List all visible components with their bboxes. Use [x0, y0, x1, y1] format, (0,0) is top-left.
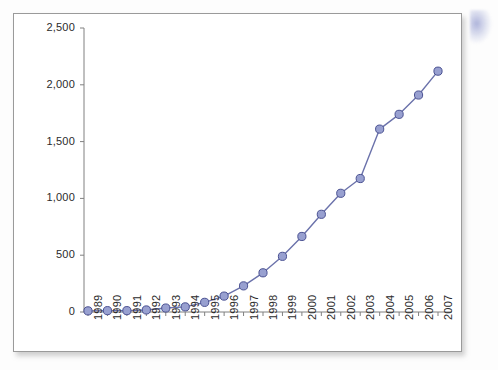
x-axis-tick-label: 1992 [150, 295, 162, 320]
x-axis-tick-label: 1989 [92, 295, 104, 320]
data-point-marker [317, 210, 325, 218]
data-point-marker [84, 307, 92, 315]
x-axis-tick-label: 2000 [306, 295, 318, 320]
data-point-marker [259, 269, 267, 277]
data-point-marker [220, 292, 228, 300]
x-axis-tick-label: 2004 [384, 295, 396, 320]
data-point-marker [376, 125, 384, 133]
x-axis-tick-label: 1990 [111, 295, 123, 320]
x-axis-tick-label: 2002 [345, 295, 357, 320]
data-point-marker [162, 304, 170, 312]
x-axis-tick-label: 2007 [442, 295, 454, 320]
x-axis-tick-label: 2005 [403, 295, 415, 320]
data-point-marker [278, 252, 286, 260]
x-axis-tick-label: 1993 [170, 295, 182, 320]
data-point-marker [239, 282, 247, 290]
x-axis-tick-label: 1996 [228, 295, 240, 320]
y-axis-tick-label: 2,000 [46, 78, 75, 90]
y-axis-tick-label: 0 [69, 305, 75, 317]
data-markers [84, 67, 442, 315]
x-axis-tick-label: 1995 [209, 295, 221, 320]
y-axis-tick-label: 1,500 [46, 135, 75, 147]
data-point-marker [395, 110, 403, 118]
y-axis-ticks [80, 28, 84, 312]
x-axis-tick-label: 1997 [248, 295, 260, 320]
data-point-marker [356, 174, 364, 182]
data-point-marker [414, 91, 422, 99]
x-axis-tick-label: 1994 [189, 295, 201, 320]
data-point-marker [298, 232, 306, 240]
x-axis-tick-label: 1998 [267, 295, 279, 320]
data-point-marker [434, 67, 442, 75]
x-axis-tick-label: 1999 [286, 295, 298, 320]
data-point-marker [123, 307, 131, 315]
y-axis-tick-label: 2,500 [46, 21, 75, 33]
data-point-marker [337, 189, 345, 197]
y-axis-tick-label: 1,000 [46, 191, 75, 203]
data-point-marker [201, 298, 209, 306]
x-axis-tick-label: 1991 [131, 295, 143, 320]
x-axis-tick-label: 2003 [364, 295, 376, 320]
scan-background: 05001,0001,5002,0002,500 198919901991199… [0, 0, 498, 370]
x-axis-tick-label: 2001 [325, 295, 337, 320]
x-axis-tick-label: 2006 [423, 295, 435, 320]
y-axis-tick-label: 500 [56, 248, 75, 260]
